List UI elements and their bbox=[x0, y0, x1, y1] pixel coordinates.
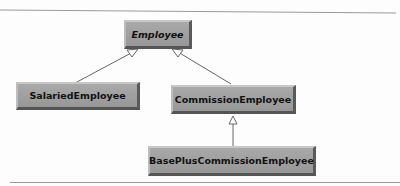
class-commission-employee: CommissionEmployee bbox=[171, 85, 296, 114]
class-salaried-employee: SalariedEmployee bbox=[16, 82, 140, 110]
class-label: SalariedEmployee bbox=[29, 90, 125, 101]
class-label: Employee bbox=[131, 29, 183, 40]
class-base-plus-commission-employee: BasePlusCommissionEmployee bbox=[148, 146, 316, 176]
class-employee: Employee bbox=[124, 20, 192, 49]
uml-class-diagram: Employee SalariedEmployee CommissionEmpl… bbox=[0, 0, 400, 186]
class-label: CommissionEmployee bbox=[175, 94, 291, 105]
class-label: BasePlusCommissionEmployee bbox=[149, 155, 314, 166]
